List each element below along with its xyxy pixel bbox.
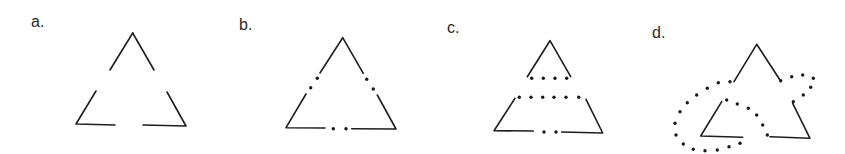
dot-c-1 <box>542 77 545 80</box>
dot-d-4 <box>686 101 689 104</box>
dot-d-3 <box>695 93 698 96</box>
dot-b-3 <box>372 87 375 90</box>
line-segment-b-2 <box>352 95 396 129</box>
panel-d: d. <box>652 24 815 152</box>
dot-d-18 <box>761 123 764 126</box>
dot-c-7 <box>552 96 555 99</box>
dot-b-4 <box>332 127 335 130</box>
panel-a: a. <box>31 13 186 126</box>
dot-d-19 <box>766 133 769 136</box>
line-segment-a-0 <box>110 33 133 70</box>
dot-d-15 <box>736 102 739 105</box>
dot-d-14 <box>725 98 728 101</box>
dot-d-26 <box>792 100 795 103</box>
line-segment-c-0 <box>527 41 570 77</box>
dot-d-24 <box>809 86 812 89</box>
panel-label-c: c. <box>447 19 459 36</box>
line-segment-c-1 <box>494 98 533 131</box>
dot-c-9 <box>577 96 580 99</box>
line-segment-c-2 <box>562 99 603 133</box>
dot-d-17 <box>755 113 758 116</box>
dot-d-7 <box>674 133 677 136</box>
dot-d-9 <box>692 148 695 151</box>
dot-b-5 <box>344 127 347 130</box>
dot-d-2 <box>706 87 709 90</box>
panel-c: c. <box>447 19 603 134</box>
dot-c-8 <box>564 96 567 99</box>
dot-c-5 <box>529 96 532 99</box>
dot-d-11 <box>716 148 719 151</box>
figure-canvas: a. b. c. d. <box>0 0 845 154</box>
dot-d-25 <box>802 93 805 96</box>
line-segment-b-0 <box>320 38 363 74</box>
dot-b-1 <box>309 86 312 89</box>
dot-c-2 <box>553 77 556 80</box>
line-segment-d-0 <box>734 44 780 81</box>
panel-label-a: a. <box>31 13 44 30</box>
dot-d-16 <box>747 107 750 110</box>
dot-b-0 <box>316 77 319 80</box>
panel-b: b. <box>239 16 396 130</box>
dot-d-0 <box>728 80 731 83</box>
dot-c-6 <box>541 96 544 99</box>
dot-d-13 <box>738 142 741 145</box>
dot-d-12 <box>727 145 730 148</box>
dot-c-11 <box>554 130 557 133</box>
dot-d-20 <box>779 79 782 82</box>
dot-d-10 <box>703 149 706 152</box>
dot-c-10 <box>542 130 545 133</box>
line-segment-a-1 <box>133 33 154 70</box>
line-segment-a-2 <box>76 91 115 125</box>
dot-c-3 <box>565 77 568 80</box>
dot-c-0 <box>530 77 533 80</box>
line-segment-d-1 <box>701 102 743 138</box>
dot-b-2 <box>365 78 368 81</box>
panel-label-d: d. <box>652 24 665 41</box>
dot-d-8 <box>682 142 685 145</box>
dot-d-1 <box>717 81 720 84</box>
line-segment-d-2 <box>770 103 810 138</box>
dot-d-6 <box>673 122 676 125</box>
dot-d-22 <box>801 73 804 76</box>
dot-d-5 <box>678 110 681 113</box>
line-segment-a-3 <box>143 92 186 126</box>
panel-label-b: b. <box>239 16 252 33</box>
line-segment-b-1 <box>286 94 325 128</box>
dot-c-4 <box>518 96 521 99</box>
dot-d-21 <box>790 75 793 78</box>
dot-d-23 <box>812 77 815 80</box>
